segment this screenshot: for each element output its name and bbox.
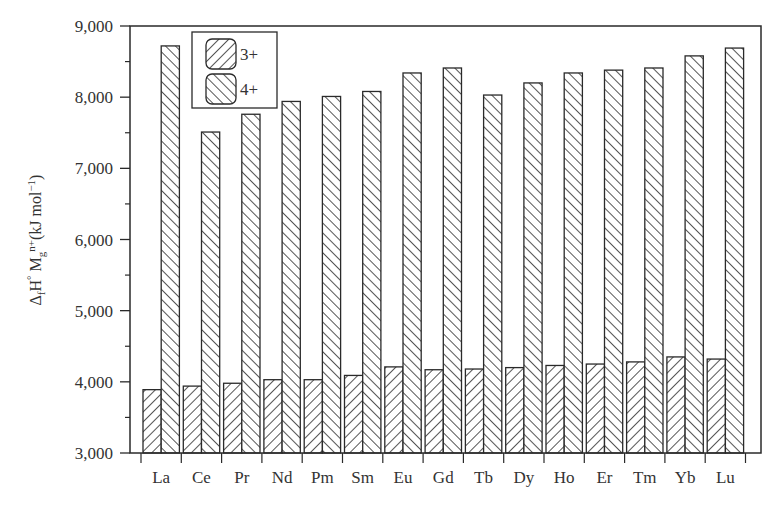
- ylabel-sub-g: g: [35, 252, 47, 258]
- x-category-label: Yb: [675, 468, 696, 487]
- bar-yb-4plus: [685, 56, 703, 453]
- x-category-label: Sm: [351, 468, 374, 487]
- bar-sm-4plus: [363, 91, 381, 453]
- bar-sm-3plus: [345, 375, 363, 453]
- x-category-label: La: [152, 468, 170, 487]
- ylabel-M: M: [27, 257, 44, 271]
- ylabel-exponent: −1: [25, 180, 37, 192]
- bar-lu-3plus: [707, 359, 725, 453]
- x-category-label: Pm: [311, 468, 334, 487]
- ylabel-degree: °: [25, 276, 37, 280]
- bar-gd-3plus: [425, 370, 443, 453]
- bar-tm-3plus: [627, 362, 645, 453]
- bar-chart: 3,0004,0005,0006,0007,0008,0009,000 LaCe…: [0, 0, 775, 512]
- y-tick-label: 3,000: [75, 444, 113, 463]
- bar-ho-3plus: [546, 365, 564, 453]
- bar-tb-3plus: [465, 369, 483, 453]
- bar-la-3plus: [143, 390, 161, 453]
- bar-tb-4plus: [484, 95, 502, 453]
- y-tick-label: 9,000: [75, 17, 113, 36]
- ylabel-sup-nplus: n+: [25, 240, 37, 252]
- bar-pr-4plus: [242, 114, 260, 453]
- legend-label-4plus: 4+: [240, 80, 258, 99]
- x-category-label: Gd: [433, 468, 454, 487]
- ylabel-sub-f: f: [35, 291, 47, 295]
- y-tick-label: 5,000: [75, 302, 113, 321]
- ylabel-close: ): [27, 175, 44, 180]
- bar-tm-4plus: [645, 68, 663, 453]
- bar-er-3plus: [586, 364, 604, 453]
- ylabel-delta: Δ: [27, 295, 44, 305]
- x-category-label: Tb: [474, 468, 493, 487]
- bar-nd-3plus: [264, 380, 282, 453]
- y-axis-label: ΔfH° Mgn+(kJ mol−1): [25, 175, 48, 306]
- legend: 3+ 4+: [192, 32, 277, 108]
- x-category-label: Ce: [192, 468, 211, 487]
- legend-swatch-3plus: [206, 39, 236, 69]
- y-tick-label: 4,000: [75, 373, 113, 392]
- y-tick-label: 8,000: [75, 88, 113, 107]
- bar-pm-3plus: [304, 380, 322, 453]
- y-tick-label: 7,000: [75, 159, 113, 178]
- bar-la-4plus: [161, 46, 179, 453]
- x-category-label: Pr: [234, 468, 249, 487]
- x-category-label: Tm: [633, 468, 657, 487]
- bar-dy-3plus: [506, 368, 524, 453]
- legend-label-3plus: 3+: [240, 45, 258, 64]
- x-category-label: Lu: [716, 468, 735, 487]
- y-tick-label: 6,000: [75, 231, 113, 250]
- bar-ce-3plus: [183, 386, 201, 453]
- bar-nd-4plus: [282, 101, 300, 453]
- bar-gd-4plus: [443, 68, 461, 453]
- x-category-label: Eu: [394, 468, 413, 487]
- bar-eu-3plus: [385, 367, 403, 453]
- legend-swatch-4plus: [206, 74, 236, 104]
- x-axis-ticks: LaCePrNdPmSmEuGdTbDyHoErTmYbLu: [141, 453, 746, 487]
- y-axis-ticks: 3,0004,0005,0006,0007,0008,0009,000: [75, 17, 130, 463]
- bar-ho-4plus: [564, 73, 582, 453]
- bar-er-4plus: [605, 70, 623, 453]
- bar-pm-4plus: [322, 96, 340, 453]
- x-category-label: Dy: [513, 468, 534, 487]
- ylabel-H: H: [27, 280, 44, 292]
- bar-dy-4plus: [524, 83, 542, 453]
- ylabel-units: (kJ mol: [27, 192, 44, 240]
- bar-lu-4plus: [725, 48, 743, 453]
- bar-eu-4plus: [403, 73, 421, 453]
- x-category-label: Ho: [554, 468, 575, 487]
- bar-ce-4plus: [202, 132, 220, 453]
- bar-pr-3plus: [224, 383, 242, 453]
- x-category-label: Er: [596, 468, 612, 487]
- bar-yb-3plus: [667, 357, 685, 453]
- x-category-label: Nd: [272, 468, 293, 487]
